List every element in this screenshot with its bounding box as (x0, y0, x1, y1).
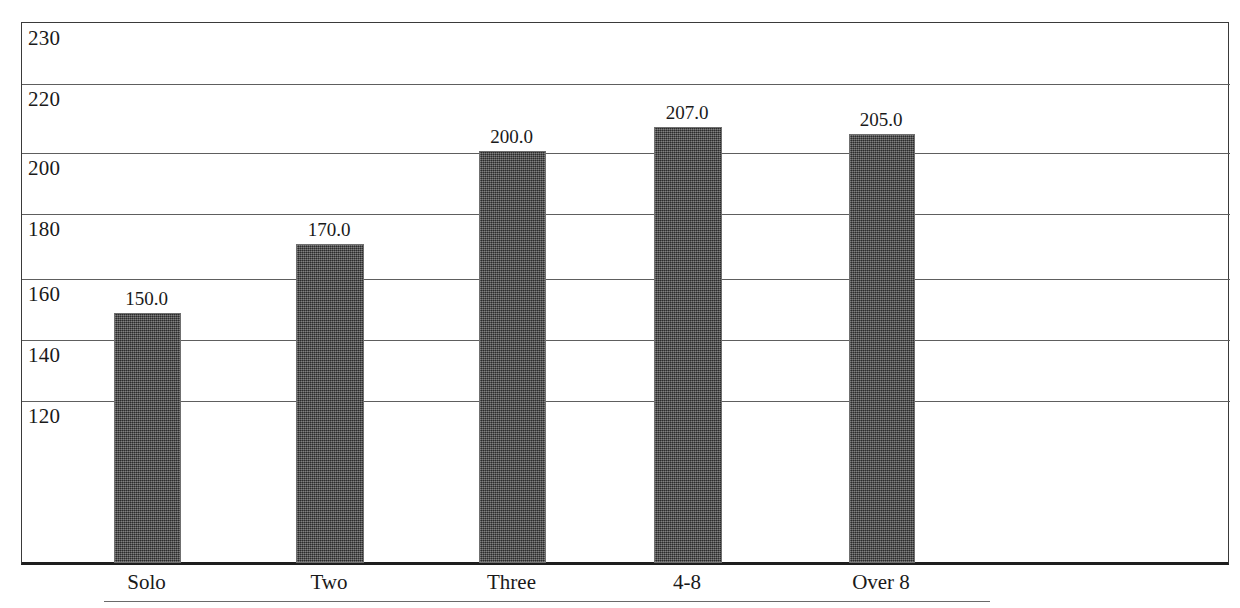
bar-value-label-two: 170.0 (284, 220, 374, 239)
bar-value-label-three: 200.0 (467, 127, 557, 146)
gridline-200 (22, 153, 1230, 154)
y-tick-label-140: 140 (28, 345, 60, 366)
bar-4-8[interactable] (654, 127, 722, 563)
x-category-label-solo: Solo (77, 572, 217, 593)
x-category-label-over-8: Over 8 (811, 572, 951, 593)
gridline-140 (22, 340, 1230, 341)
bar-chart-figure: 230220200180160140120 150.0170.0200.0207… (0, 0, 1240, 608)
y-tick-label-230: 230 (28, 28, 60, 49)
gridline-160 (22, 279, 1230, 280)
bar-solo[interactable] (114, 313, 181, 563)
gridline-180 (22, 214, 1230, 215)
y-tick-label-180: 180 (28, 219, 60, 240)
y-tick-label-160: 160 (28, 284, 60, 305)
y-tick-label-220: 220 (28, 89, 60, 110)
bar-three[interactable] (479, 151, 546, 563)
gridline-220 (22, 84, 1230, 85)
y-tick-label-120: 120 (28, 406, 60, 427)
x-category-label-4-8: 4-8 (617, 572, 757, 593)
y-tick-label-200: 200 (28, 158, 60, 179)
bar-value-label-over-8: 205.0 (836, 110, 926, 129)
plot-frame (21, 22, 1229, 565)
gridline-120 (22, 401, 1230, 402)
x-category-label-three: Three (442, 572, 582, 593)
x-category-label-two: Two (259, 572, 399, 593)
bar-value-label-solo: 150.0 (102, 289, 192, 308)
bar-over-8[interactable] (849, 134, 915, 563)
bottom-rule (104, 601, 990, 602)
bar-two[interactable] (296, 244, 364, 563)
bar-value-label-4-8: 207.0 (642, 103, 732, 122)
